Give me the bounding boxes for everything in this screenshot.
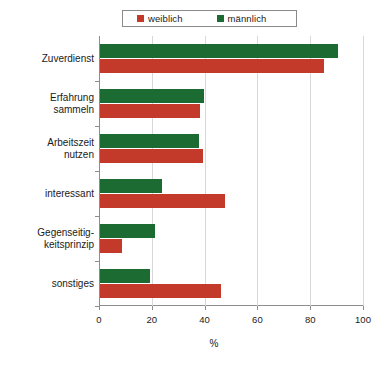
bar-maennlich	[100, 89, 204, 103]
x-tick	[310, 306, 311, 310]
category-label: Erfahrung sammeln	[2, 92, 94, 116]
y-tick	[95, 81, 99, 82]
bar-weiblich	[100, 104, 200, 118]
bar-weiblich	[100, 239, 122, 253]
chart-legend: weiblich männlich	[122, 10, 297, 27]
x-axis-title-label: %	[210, 338, 219, 349]
bar-group	[100, 134, 363, 164]
legend-label-weiblich: weiblich	[148, 14, 183, 24]
y-tick	[95, 171, 99, 172]
bar-maennlich	[100, 134, 199, 148]
bar-group	[100, 179, 363, 209]
category-label: Zuverdienst	[2, 53, 94, 65]
category-label: Arbeitszeit nutzen	[2, 137, 94, 161]
bar-weiblich	[100, 194, 225, 208]
y-tick	[95, 261, 99, 262]
legend-entry-maennlich: männlich	[217, 14, 267, 24]
x-tick-label: 40	[199, 314, 210, 325]
category-label: interessant	[2, 188, 94, 200]
bar-weiblich	[100, 284, 221, 298]
legend-label-maennlich: männlich	[228, 14, 267, 24]
x-tick	[99, 306, 100, 310]
gridline	[205, 36, 206, 306]
legend-entry-weiblich: weiblich	[137, 14, 183, 24]
bar-maennlich	[100, 44, 338, 58]
bar-maennlich	[100, 269, 150, 283]
y-tick	[95, 216, 99, 217]
x-axis-line	[99, 305, 363, 306]
legend-swatch-weiblich	[137, 15, 144, 22]
gridline	[152, 36, 153, 306]
x-tick	[205, 306, 206, 310]
x-tick-label: 0	[96, 314, 101, 325]
category-label: Gegenseitig- keitsprinzip	[2, 227, 94, 251]
bar-maennlich	[100, 224, 155, 238]
gridline	[363, 36, 364, 306]
x-axis-title: %	[0, 338, 386, 349]
x-tick-label: 80	[305, 314, 316, 325]
x-tick	[257, 306, 258, 310]
y-tick	[95, 126, 99, 127]
category-label: sonstiges	[2, 278, 94, 290]
bar-group	[100, 224, 363, 254]
legend-swatch-maennlich	[217, 15, 224, 22]
x-tick-label: 60	[252, 314, 263, 325]
bar-group	[100, 44, 363, 74]
x-tick-label: 100	[355, 314, 371, 325]
gridline	[257, 36, 258, 306]
x-tick	[152, 306, 153, 310]
bar-group	[100, 89, 363, 119]
bar-weiblich	[100, 149, 203, 163]
bar-weiblich	[100, 59, 324, 73]
gridline	[310, 36, 311, 306]
plot-area: 020406080100	[99, 36, 363, 306]
bar-group	[100, 269, 363, 299]
bar-chart: weiblich männlich 020406080100 Zuverdien…	[0, 0, 386, 366]
bar-maennlich	[100, 179, 162, 193]
x-tick	[363, 306, 364, 310]
x-tick-label: 20	[147, 314, 158, 325]
y-axis-line	[99, 36, 100, 306]
